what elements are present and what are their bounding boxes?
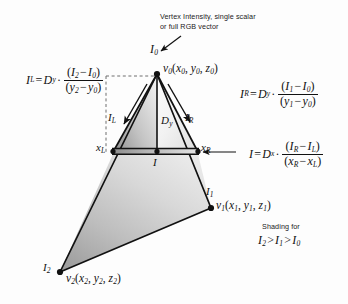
eq-i-denominator: (xR−xL) bbox=[282, 154, 323, 169]
label-xl: xL bbox=[96, 142, 105, 155]
label-xr: xR bbox=[201, 142, 211, 155]
eq-i-fraction: (IR−IL) (xR−xL) bbox=[282, 140, 323, 169]
label-ir-interior: IR bbox=[185, 112, 193, 125]
label-i2: I2 bbox=[43, 262, 51, 275]
eq-ir-numerator: (I1−I0) bbox=[278, 80, 318, 94]
vertex-dot-v0 bbox=[154, 71, 160, 77]
label-i0: I0 bbox=[150, 43, 158, 57]
vertex-intensity-annotation: Vertex Intensity, single scalar or full … bbox=[160, 12, 278, 33]
scanline-dot-mid bbox=[154, 149, 159, 154]
eq-i-dot: · bbox=[274, 148, 280, 161]
label-i1: I1 bbox=[206, 186, 214, 199]
label-dy-interior: Dy bbox=[161, 115, 172, 128]
label-v1-coords: v1(x1, y1, z1) bbox=[216, 199, 271, 213]
eq-ir-coef: D bbox=[258, 88, 267, 101]
eq-il-denominator: (y2−y0) bbox=[64, 80, 104, 95]
eq-il-numerator: (I2−I0) bbox=[64, 66, 104, 80]
shading-for-relation: I2>I1>I0 bbox=[258, 234, 300, 248]
annotation-line-2: or full RGB vector bbox=[160, 22, 278, 32]
eq-i-numerator: (IR−IL) bbox=[282, 140, 323, 154]
eq-ir-equals: = bbox=[249, 88, 258, 101]
eq-il-equals: = bbox=[34, 74, 43, 87]
equation-ir: IR = Dy · (I1−I0) (y1−y0) bbox=[240, 80, 318, 109]
annotation-line-1: Vertex Intensity, single scalar bbox=[160, 12, 278, 22]
label-il-interior: IL bbox=[108, 112, 116, 125]
eq-ir-denominator: (y1−y0) bbox=[278, 94, 318, 109]
label-i0-sub: 0 bbox=[154, 48, 158, 57]
scanline-dot-left bbox=[110, 149, 115, 154]
vertex-dot-v2 bbox=[57, 269, 63, 275]
lower-facet bbox=[60, 154, 211, 272]
eq-il-coef: D bbox=[44, 74, 53, 87]
label-v2-coords: v2(x2, y2, z2) bbox=[66, 272, 121, 286]
equation-il: IL = Dy · (I2−I0) (y2−y0) bbox=[26, 66, 103, 95]
eq-ir-dot: · bbox=[270, 88, 276, 101]
equation-i: I = Dx · (IR−IL) (xR−xL) bbox=[249, 140, 323, 169]
eq-i-coef: D bbox=[262, 148, 271, 161]
eq-i-equals: = bbox=[253, 148, 262, 161]
scanline-dot-right bbox=[195, 149, 200, 154]
eq-il-dot: · bbox=[56, 74, 62, 87]
label-v0-coords: v0(x0, y0, z0) bbox=[163, 62, 218, 76]
eq-ir-fraction: (I1−I0) (y1−y0) bbox=[278, 80, 318, 109]
label-i-scanline: I bbox=[153, 157, 157, 169]
shading-for-caption: Shading for bbox=[262, 222, 300, 232]
annotation-leader-arrow bbox=[161, 36, 181, 51]
vertex-dot-v1 bbox=[208, 205, 214, 211]
figure-canvas: Vertex Intensity, single scalar or full … bbox=[0, 0, 348, 304]
eq-il-fraction: (I2−I0) (y2−y0) bbox=[64, 66, 104, 95]
